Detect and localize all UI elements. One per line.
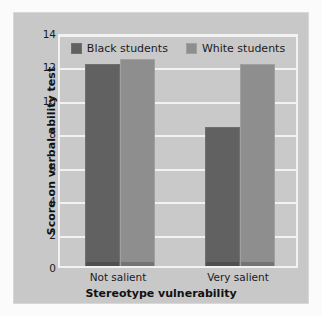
bar xyxy=(240,64,275,266)
y-axis-tick-label: 0 xyxy=(30,262,56,274)
y-axis-tick-label: 14 xyxy=(30,28,56,40)
y-axis-tick-label: 8 xyxy=(30,128,56,140)
figure-panel: Score on verbal ability test 02468101214… xyxy=(13,12,309,304)
x-axis-title: Stereotype vulnerability xyxy=(14,287,308,300)
x-axis-tick-label: Not salient xyxy=(90,271,147,283)
plot-area: Black studentsWhite students xyxy=(58,34,298,268)
y-axis-tick-label: 4 xyxy=(30,195,56,207)
bar xyxy=(85,64,120,266)
y-axis-tick-label: 6 xyxy=(30,162,56,174)
y-axis-tick-label: 12 xyxy=(30,61,56,73)
x-axis-tick-label: Very salient xyxy=(207,271,269,283)
x-axis-ticks: Not salientVery salient xyxy=(58,271,298,287)
bar xyxy=(120,59,155,266)
bar-series-group xyxy=(60,36,296,266)
y-axis-tick-label: 10 xyxy=(30,95,56,107)
y-axis-ticks: 02468101214 xyxy=(28,34,56,268)
y-axis-tick-label: 2 xyxy=(30,229,56,241)
bar xyxy=(205,127,240,266)
